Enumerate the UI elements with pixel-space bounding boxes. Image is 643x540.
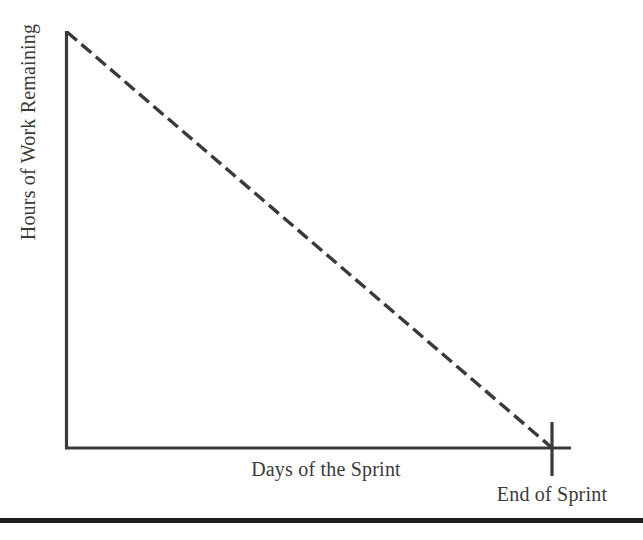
ideal-burndown-line bbox=[67, 32, 551, 447]
y-axis-label: Hours of Work Remaining bbox=[14, 18, 42, 246]
end-of-sprint-label: End of Sprint bbox=[478, 481, 626, 507]
x-axis-label: Days of the Sprint bbox=[226, 456, 426, 482]
page-footer-rule bbox=[0, 518, 643, 523]
burndown-chart-figure: Hours of Work Remaining Days of the Spri… bbox=[0, 0, 643, 540]
